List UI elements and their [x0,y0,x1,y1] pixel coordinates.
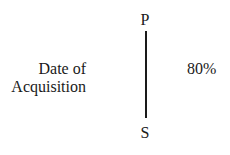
ownership-percentage-label: 80% [187,60,216,78]
annotation-line-1: Date of [11,60,86,78]
parent-node-label: P [135,12,155,28]
annotation-line-2: Acquisition [11,78,86,96]
subsidiary-node-label: S [135,125,155,141]
date-of-acquisition-annotation: Date of Acquisition [11,60,86,96]
ownership-connector-line [145,31,147,118]
